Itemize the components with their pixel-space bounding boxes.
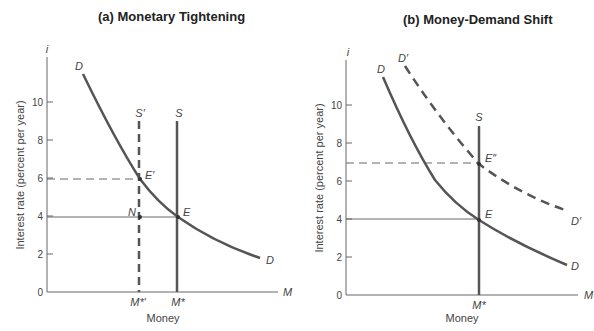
panel-a-chart: i M 0 2 4 6 8 10 Interest rate (percent … xyxy=(14,43,293,324)
panel-b-dp-bottom-label: D′ xyxy=(571,215,582,227)
panel-a-e-label: E xyxy=(183,206,191,218)
panel-a-tick-6: 6 xyxy=(37,173,43,184)
panel-b-x-symbol: M xyxy=(584,289,594,301)
panel-b-dp-top-label: D′ xyxy=(398,52,409,64)
panel-b-m-star-label: M* xyxy=(472,299,486,311)
panel-a-n-label: N xyxy=(128,206,136,218)
panel-b-point-e-double-prime xyxy=(477,162,481,166)
panel-a-m-star-prime-label: M*′ xyxy=(130,296,146,308)
panel-b-d-bottom-label: D xyxy=(571,260,579,272)
panel-a-demand-curve xyxy=(83,74,260,258)
panel-a-e-prime-label: E′ xyxy=(145,169,155,181)
panel-b-tick-4: 4 xyxy=(336,214,342,225)
panel-a-tick-8: 8 xyxy=(37,135,43,146)
panel-b-demand-curve xyxy=(383,77,567,265)
panel-b-y-symbol: i xyxy=(347,46,350,58)
panel-b-tick-2: 2 xyxy=(336,252,342,263)
panel-a-point-e-prime xyxy=(138,177,142,181)
panel-a-d-top-label: D xyxy=(75,60,83,72)
panel-b-shifted-demand-curve xyxy=(405,66,568,211)
panel-b-tick-10: 10 xyxy=(331,100,343,111)
panel-a-s-label: S xyxy=(175,107,183,119)
panel-b-d-top-label: D xyxy=(377,63,385,75)
panel-a-tick-0: 0 xyxy=(37,287,43,298)
panel-a-tick-10: 10 xyxy=(32,97,44,108)
panel-a-y-label: Interest rate (percent per year) xyxy=(14,100,26,249)
panel-b-tick-0: 0 xyxy=(336,290,342,301)
panel-a-m-star-label: M* xyxy=(171,296,185,308)
panel-b-chart: i M 0 2 4 6 8 10 Interest rate (percent … xyxy=(313,46,594,324)
panel-a-x-label: Money xyxy=(146,312,180,324)
chart-canvas: i M 0 2 4 6 8 10 Interest rate (percent … xyxy=(0,0,594,331)
panel-b-y-label: Interest rate (percent per year) xyxy=(313,103,325,252)
panel-b-s-label: S xyxy=(475,111,483,123)
panel-a-x-symbol: M xyxy=(283,286,293,298)
panel-a-y-symbol: i xyxy=(46,43,49,55)
panel-a-point-n xyxy=(138,215,142,219)
panel-a-point-e xyxy=(176,215,180,219)
panel-a-tick-2: 2 xyxy=(37,249,43,260)
panel-a-tick-4: 4 xyxy=(37,211,43,222)
panel-b-x-label: Money xyxy=(445,312,479,324)
panel-b-tick-8: 8 xyxy=(336,138,342,149)
panel-a-s-prime-label: S′ xyxy=(135,107,145,119)
panel-b-e-label: E xyxy=(485,208,493,220)
panel-b-point-e xyxy=(477,218,481,222)
panel-a-d-bottom-label: D xyxy=(266,254,274,266)
panel-b-e-double-prime-label: E″ xyxy=(485,152,497,164)
panel-b-tick-6: 6 xyxy=(336,176,342,187)
